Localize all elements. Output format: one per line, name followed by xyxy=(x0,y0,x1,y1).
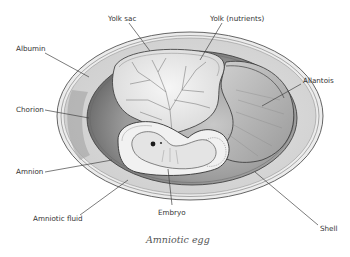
label-albumin: Albumin xyxy=(16,44,46,53)
diagram-caption: Amniotic egg xyxy=(145,234,210,245)
leader-shell xyxy=(255,172,318,225)
label-amnion: Amnion xyxy=(16,167,43,176)
label-allantois: Allantois xyxy=(303,76,334,85)
label-amniotic-fluid: Amniotic fluid xyxy=(33,214,83,223)
leader-albumin xyxy=(45,53,89,77)
leader-amniotic-fluid xyxy=(80,180,128,215)
amniotic-egg-diagram: Yolk sac Yolk (nutrients) Albumin Allant… xyxy=(0,0,350,257)
label-embryo: Embryo xyxy=(158,208,186,217)
label-yolk-sac: Yolk sac xyxy=(107,14,136,23)
label-shell: Shell xyxy=(320,224,338,233)
label-yolk: Yolk (nutrients) xyxy=(209,14,265,23)
label-chorion: Chorion xyxy=(16,105,44,114)
